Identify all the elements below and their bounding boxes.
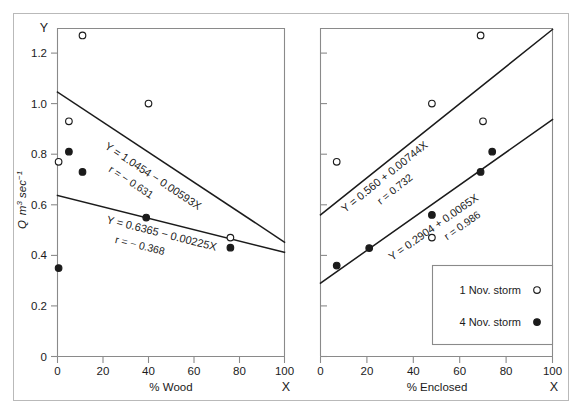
- left-panel-x-ticks: [58, 357, 285, 364]
- y-tick-label-1_2: 1.2: [31, 47, 47, 59]
- left-x-axis-title: % Wood: [149, 381, 192, 393]
- left-panel-y-ticks: [51, 53, 58, 356]
- data-point-open: [66, 118, 73, 125]
- data-point-filled: [489, 148, 496, 155]
- left-x-tick-label-80: 80: [233, 365, 246, 377]
- data-point-filled: [66, 148, 73, 155]
- left-x-tick-label-40: 40: [142, 365, 155, 377]
- y-tick-label-1_0: 1.0: [31, 98, 47, 110]
- left-x-tick-label-0: 0: [54, 365, 60, 377]
- left-panel: 0 0.2 0.4 0.6 0.8 1.0 1.2 Y Qm3 sec−1: [15, 21, 295, 394]
- data-point-open: [429, 100, 436, 107]
- data-point-filled: [333, 262, 340, 269]
- legend-box: [433, 266, 553, 345]
- data-point-filled: [227, 244, 234, 251]
- y-tick-label-0: 0: [41, 351, 47, 363]
- legend-marker-filled-circle: [534, 319, 541, 326]
- data-point-open: [227, 234, 234, 241]
- left-fit-line-1nov: [58, 92, 285, 242]
- left-x-tick-label-20: 20: [97, 365, 110, 377]
- data-point-filled: [429, 212, 436, 219]
- right-panel: 0 20 40 60 80 100 % Enclosed X Y = 0.560…: [317, 28, 562, 394]
- y-tick-label-0_6: 0.6: [31, 199, 47, 211]
- y-tick-label-0_8: 0.8: [31, 148, 47, 160]
- right-x-axis-variable-symbol: X: [550, 380, 559, 394]
- data-point-open: [145, 100, 152, 107]
- y-axis-title-m: m: [16, 205, 28, 215]
- data-point-open: [333, 159, 340, 166]
- right-x-tick-label-80: 80: [500, 365, 513, 377]
- legend-label-1nov: 1 Nov. storm: [459, 284, 521, 296]
- right-fit-line-1nov: [321, 30, 553, 215]
- right-x-tick-label-60: 60: [453, 365, 466, 377]
- y-axis-variable-symbol: Y: [40, 21, 49, 35]
- data-point-filled: [143, 214, 150, 221]
- data-point-open: [429, 234, 436, 241]
- right-series-4nov-points: [333, 148, 495, 268]
- right-x-tick-label-20: 20: [361, 365, 374, 377]
- scatter-figure: 0 0.2 0.4 0.6 0.8 1.0 1.2 Y Qm3 sec−1: [0, 0, 583, 415]
- right-x-tick-label-100: 100: [543, 365, 562, 377]
- y-axis-title: Qm3 sec−1: [15, 171, 29, 229]
- left-series-1nov-points: [55, 32, 233, 241]
- left-x-tick-label-60: 60: [188, 365, 201, 377]
- y-axis-title-sec-exp: −1: [15, 171, 24, 180]
- legend: 1 Nov. storm 4 Nov. storm: [433, 266, 553, 345]
- right-x-tick-label-40: 40: [407, 365, 420, 377]
- figure-root: 0 0.2 0.4 0.6 0.8 1.0 1.2 Y Qm3 sec−1: [0, 0, 583, 415]
- data-point-filled: [366, 245, 373, 252]
- y-tick-label-0_4: 0.4: [31, 249, 48, 261]
- right-x-axis-title: % Enclosed: [407, 381, 468, 393]
- right-eqn-1nov-group: Y = 0.560 + 0.00744X r = 0.732: [339, 138, 440, 227]
- data-point-open: [55, 159, 62, 166]
- data-point-open: [477, 32, 484, 39]
- left-x-axis-variable-symbol: X: [282, 380, 291, 394]
- right-eqn-4nov-group: Y = 0.2904 + 0.0065X r = 0.986: [386, 191, 489, 275]
- data-point-open: [79, 32, 86, 39]
- data-point-filled: [55, 265, 62, 272]
- data-point-filled: [79, 169, 86, 176]
- left-fit-line-4nov: [58, 196, 285, 253]
- legend-label-4nov: 4 Nov. storm: [459, 316, 521, 328]
- data-point-filled: [477, 169, 484, 176]
- y-tick-label-0_2: 0.2: [31, 300, 47, 312]
- svg-text:Qm3 sec−1: Qm3 sec−1: [15, 171, 29, 229]
- data-point-open: [480, 118, 487, 125]
- y-axis-title-sec: sec: [16, 180, 28, 201]
- y-axis-title-q: Q: [16, 220, 28, 229]
- right-x-tick-label-0: 0: [317, 365, 323, 377]
- right-panel-y-ticks: [321, 53, 328, 356]
- left-x-tick-label-100: 100: [275, 365, 294, 377]
- right-panel-x-ticks: [321, 357, 553, 364]
- legend-marker-open-circle: [534, 287, 541, 294]
